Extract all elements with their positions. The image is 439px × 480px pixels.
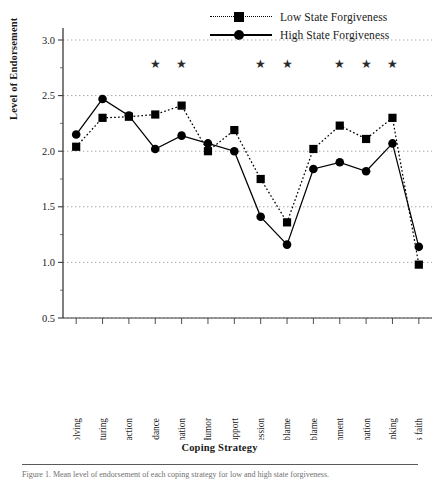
data-point-marker xyxy=(98,95,107,104)
data-point-marker xyxy=(257,175,265,183)
data-point-marker xyxy=(204,147,212,155)
x-tick-label: Emotional expression xyxy=(256,418,266,440)
significance-star-icon: ★ xyxy=(176,57,187,71)
x-tick-label: Other-blame xyxy=(282,418,292,440)
figure-container: Low State Forgiveness High State Forgive… xyxy=(0,0,439,480)
x-axis-labels: Problem solvingCognitive restructuringAc… xyxy=(72,417,425,440)
svg-text:3.0: 3.0 xyxy=(42,35,55,46)
svg-text:2.0: 2.0 xyxy=(42,146,55,157)
data-point-marker xyxy=(335,158,344,167)
data-point-marker xyxy=(415,243,424,252)
x-tick-label: Cognitive avoidance xyxy=(151,418,161,440)
x-tick-label: Self-blame xyxy=(309,418,319,440)
x-tick-label: Passive resignation xyxy=(362,418,372,440)
x-tick-label: Humor xyxy=(203,417,213,440)
gridlines xyxy=(63,40,432,318)
data-point-marker xyxy=(256,213,265,222)
data-point-marker xyxy=(177,131,186,140)
data-point-marker xyxy=(125,111,134,120)
data-point-marker xyxy=(362,135,370,143)
caption-divider xyxy=(22,464,418,465)
svg-text:0.5: 0.5 xyxy=(42,313,55,324)
data-point-marker xyxy=(309,145,317,153)
x-tick-label: Wishful thinking xyxy=(388,418,398,440)
x-axis-ticks xyxy=(76,318,419,324)
data-point-marker xyxy=(336,122,344,130)
x-tick-label: Rumination xyxy=(177,418,187,440)
x-tick-label: Religious faith xyxy=(414,418,424,440)
data-point-marker xyxy=(415,261,423,269)
significance-star-icon: ★ xyxy=(255,57,266,71)
data-point-marker xyxy=(388,139,397,148)
significance-star-icon: ★ xyxy=(150,57,161,71)
figure-caption: Figure 1. Mean level of endorsement of e… xyxy=(22,470,422,480)
data-point-marker xyxy=(230,147,239,156)
svg-text:1.0: 1.0 xyxy=(42,257,55,268)
y-axis-ticks: 0.51.01.52.02.53.0 xyxy=(42,35,63,324)
data-point-marker xyxy=(151,145,160,154)
x-tick-label: Cognitive restructuring xyxy=(98,418,108,440)
data-point-marker xyxy=(283,240,292,249)
axis-lines xyxy=(63,28,432,318)
x-tick-label: Problem solving xyxy=(72,418,82,440)
svg-text:1.5: 1.5 xyxy=(42,201,55,212)
significance-star-icon: ★ xyxy=(361,57,372,71)
x-tick-label: Active distraction xyxy=(124,418,134,440)
significance-star-icon: ★ xyxy=(387,57,398,71)
series-high-state-forgiveness xyxy=(72,95,423,251)
x-axis-title: Coping Strategy xyxy=(0,442,439,453)
significance-star-icon: ★ xyxy=(282,57,293,71)
data-point-marker xyxy=(204,139,213,148)
data-point-marker xyxy=(283,218,291,226)
svg-text:2.5: 2.5 xyxy=(42,90,55,101)
data-point-marker xyxy=(151,110,159,118)
data-point-marker xyxy=(72,130,81,139)
chart-svg: 0.51.01.52.02.53.0 ★★★★★★★ Problem solvi… xyxy=(0,0,439,440)
data-point-marker xyxy=(362,167,371,176)
data-point-marker xyxy=(309,165,318,174)
data-point-marker xyxy=(98,114,106,122)
plot-area: 0.51.01.52.02.53.0 ★★★★★★★ Problem solvi… xyxy=(0,0,439,440)
data-point-marker xyxy=(230,126,238,134)
significance-star-icon: ★ xyxy=(334,57,345,71)
significance-stars: ★★★★★★★ xyxy=(150,57,398,71)
data-point-marker xyxy=(72,143,80,151)
x-tick-label: Emotional containment xyxy=(335,418,345,440)
x-tick-label: Social support xyxy=(230,418,240,440)
data-point-marker xyxy=(388,114,396,122)
data-point-marker xyxy=(178,102,186,110)
